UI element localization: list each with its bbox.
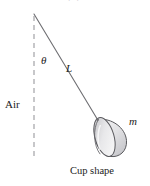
string-attachment-point bbox=[96, 118, 99, 121]
pendulum-cup-figure: p p bbox=[0, 0, 150, 186]
length-L-label: L bbox=[66, 63, 72, 74]
cup-shape-caption: Cup shape bbox=[0, 166, 150, 177]
mass-m-label: m bbox=[129, 116, 137, 127]
air-medium-label: Air bbox=[5, 99, 20, 110]
angle-theta-label: θ bbox=[41, 55, 46, 66]
figure-canvas bbox=[0, 0, 150, 186]
